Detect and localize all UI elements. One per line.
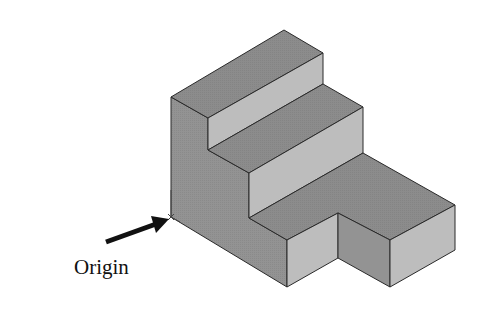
isometric-model xyxy=(0,0,484,312)
origin-label: Origin xyxy=(74,255,129,280)
arrow-icon xyxy=(106,216,169,242)
